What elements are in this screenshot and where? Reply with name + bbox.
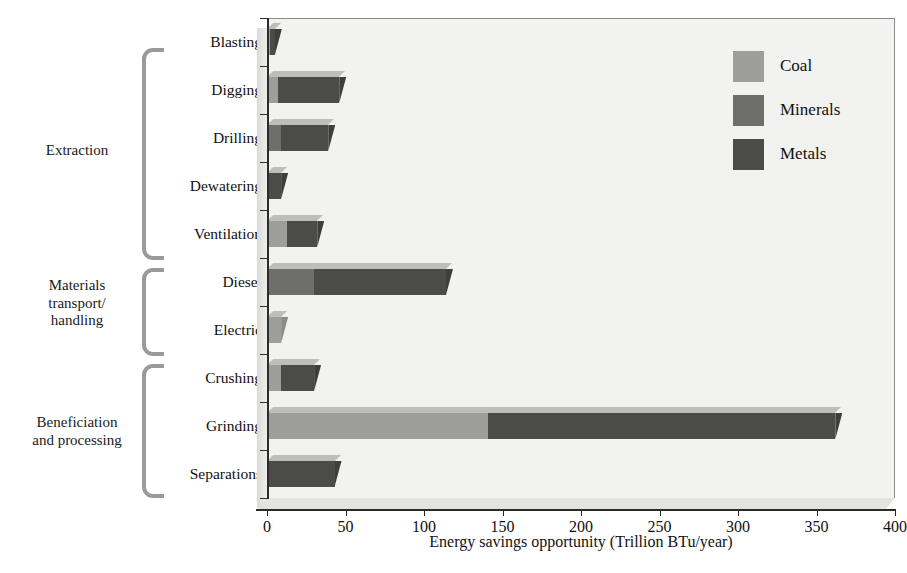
chart-legend: CoalMineralsMetals [733,44,883,176]
y-axis-tick [260,162,267,163]
legend-swatch-metals [733,139,764,170]
x-axis-tick [660,509,661,516]
bar-segment-drilling-minerals [267,125,281,151]
bar-segment-grinding-metals [488,413,835,439]
y-axis-tick [260,402,267,403]
bar-end-face-ventilation [317,221,324,247]
category-label-dewatering: Dewatering [150,178,262,194]
category-label-diesel: Diesel [150,274,262,290]
bar-segment-ventilation-coal [267,221,287,247]
x-axis-line [256,509,896,511]
legend-item-minerals[interactable]: Minerals [733,88,883,132]
category-label-drilling: Drilling [150,130,262,146]
bar-electric [267,317,895,343]
bar-end-face-grinding [835,413,842,439]
category-label-blasting: Blasting [150,34,262,50]
category-label-ventilation: Ventilation [150,226,262,242]
bar-top-face-crushing [267,359,320,365]
bar-chart: Extraction Materials transport/ handling… [0,0,907,573]
bar-end-face-blasting [275,29,282,55]
x-axis-tick [581,509,582,516]
y-axis-tick [260,210,267,211]
y-axis-tick [260,354,267,355]
category-label-digging: Digging [150,82,262,98]
bar-top-face-diesel [267,263,452,269]
group-label-extraction: Extraction [18,142,136,160]
category-label-separations: Separations [150,466,262,482]
y-axis-tick [260,498,267,499]
x-axis-tick [346,509,347,516]
bar-segment-diesel-metals [314,269,446,295]
category-label-electric: Electric [150,322,262,338]
y-axis-tick [260,306,267,307]
bar-dewatering [267,173,895,199]
y-axis-tick [260,66,267,67]
group-label-materials-transport-handling: Materials transport/ handling [18,277,136,330]
y-axis-tick [260,450,267,451]
bar-top-face-grinding [267,407,841,413]
bar-segment-electric-coal [267,317,281,343]
legend-item-metals[interactable]: Metals [733,132,883,176]
bar-end-face-electric [281,317,288,343]
bar-top-face-drilling [267,119,334,125]
bar-end-face-digging [339,77,346,103]
bar-segment-separations-metals [267,461,335,487]
x-axis-tick [424,509,425,516]
category-axis-labels: BlastingDiggingDrillingDewateringVentila… [150,0,262,573]
x-axis-tick [817,509,818,516]
bar-segment-drilling-metals [281,125,328,151]
bar-separations [267,461,895,487]
y-axis-tick [260,258,267,259]
bar-end-face-separations [335,461,342,487]
x-axis-tick [895,509,896,516]
category-label-grinding: Grinding [150,418,262,434]
bar-end-face-diesel [446,269,453,295]
legend-swatch-minerals [733,95,764,126]
bar-top-face-ventilation [267,215,323,221]
bar-top-face-digging [267,71,345,77]
y-axis-line [267,18,269,499]
y-axis-tick [260,18,267,19]
bar-segment-crushing-coal [267,365,281,391]
legend-item-coal[interactable]: Coal [733,44,883,88]
bar-segment-blasting-metals [270,29,275,55]
bar-segment-digging-metals [278,77,339,103]
bar-top-face-separations [267,455,341,461]
x-axis-title: Energy savings opportunity (Trillion BTu… [267,533,895,551]
category-label-crushing: Crushing [150,370,262,386]
bar-segment-grinding-coal [267,413,488,439]
bar-segment-ventilation-metals [287,221,317,247]
y-axis-tick [260,114,267,115]
legend-label-coal: Coal [780,56,812,76]
bar-end-face-dewatering [281,173,288,199]
bar-segment-crushing-metals [281,365,314,391]
bar-end-face-drilling [328,125,335,151]
x-axis-tick [267,509,268,516]
bar-crushing [267,365,895,391]
group-label-beneficiation-and-processing: Beneficiation and processing [8,414,146,449]
bar-segment-diesel-minerals [267,269,314,295]
legend-swatch-coal [733,51,764,82]
legend-label-minerals: Minerals [780,100,840,120]
bar-ventilation [267,221,895,247]
x-axis-tick [738,509,739,516]
bar-grinding [267,413,895,439]
bar-diesel [267,269,895,295]
x-axis-tick [503,509,504,516]
plot-left-wall [257,28,267,508]
legend-label-metals: Metals [780,144,826,164]
bar-end-face-crushing [314,365,321,391]
bar-segment-dewatering-metals [267,173,281,199]
